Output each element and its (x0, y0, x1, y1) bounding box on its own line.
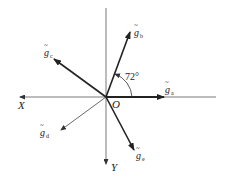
svg-text:b: b (140, 33, 143, 39)
label-gb: g ~ b (134, 21, 143, 39)
vector-gd (61, 97, 106, 130)
svg-text:~: ~ (40, 121, 44, 129)
svg-text:~: ~ (134, 21, 138, 29)
svg-text:~: ~ (136, 144, 140, 152)
label-ga: g ~ a (165, 78, 174, 96)
x-axis-label: X (17, 99, 26, 111)
svg-text:a: a (171, 90, 174, 96)
label-gc: g ~ c (44, 41, 53, 59)
y-axis-label: Y (111, 161, 119, 173)
vector-gb (106, 32, 130, 97)
origin-label: O (112, 98, 120, 110)
svg-text:~: ~ (165, 78, 169, 86)
vector-ge (106, 97, 134, 150)
svg-text:d: d (46, 133, 49, 139)
svg-text:c: c (50, 53, 53, 59)
angle-label: 72° (125, 71, 139, 82)
vector-diagram: 72° X Y O g ~ a g ~ b g ~ c g ~ d g ~ e (0, 0, 228, 183)
vector-gc (54, 59, 106, 97)
svg-text:e: e (142, 156, 145, 162)
label-gd: g ~ d (40, 121, 49, 139)
svg-text:~: ~ (44, 41, 48, 49)
label-ge: g ~ e (136, 144, 145, 162)
